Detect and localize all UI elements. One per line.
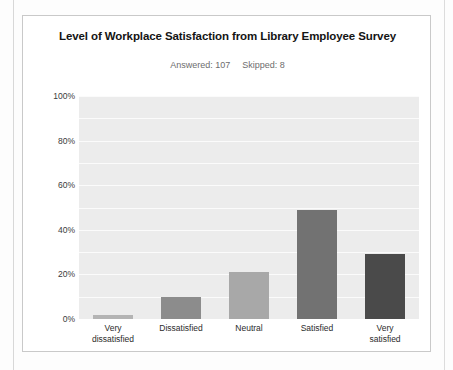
bar-slot	[351, 96, 419, 319]
bar-slot	[283, 96, 351, 319]
bar-slot	[79, 96, 147, 319]
bar-slot	[147, 96, 215, 319]
answered-count: Answered: 107	[170, 60, 230, 70]
bar[interactable]	[93, 315, 133, 319]
y-axis-tick-label: 80%	[29, 136, 75, 146]
page-edge-right	[444, 0, 445, 370]
x-axis-tick-label: Verysatisfied	[351, 323, 419, 345]
y-axis-tick-label: 20%	[29, 269, 75, 279]
chart-title: Level of Workplace Satisfaction from Lib…	[23, 30, 432, 42]
bar[interactable]	[297, 210, 337, 319]
x-axis-tick-label: Satisfied	[283, 323, 351, 334]
y-axis-tick-label: 0%	[29, 314, 75, 324]
bar-series	[79, 96, 419, 319]
x-axis: VerydissatisfiedDissatisfiedNeutralSatis…	[79, 323, 419, 351]
y-axis-tick-label: 40%	[29, 225, 75, 235]
y-axis: 0%20%40%60%80%100%	[29, 96, 75, 319]
x-axis-tick-label: Dissatisfied	[147, 323, 215, 334]
x-axis-tick-label: Verydissatisfied	[79, 323, 147, 345]
scanned-page-background: Level of Workplace Satisfaction from Lib…	[0, 0, 453, 370]
x-axis-tick-label: Neutral	[215, 323, 283, 334]
chart-subtitle: Answered: 107Skipped: 8	[23, 60, 432, 70]
bar[interactable]	[229, 272, 269, 319]
bar[interactable]	[161, 297, 201, 319]
y-axis-tick-label: 60%	[29, 180, 75, 190]
bar-slot	[215, 96, 283, 319]
bar[interactable]	[365, 254, 405, 319]
chart-card: Level of Workplace Satisfaction from Lib…	[22, 15, 431, 352]
page-edge-left	[13, 0, 14, 370]
y-axis-tick-label: 100%	[29, 91, 75, 101]
skipped-count: Skipped: 8	[242, 60, 285, 70]
